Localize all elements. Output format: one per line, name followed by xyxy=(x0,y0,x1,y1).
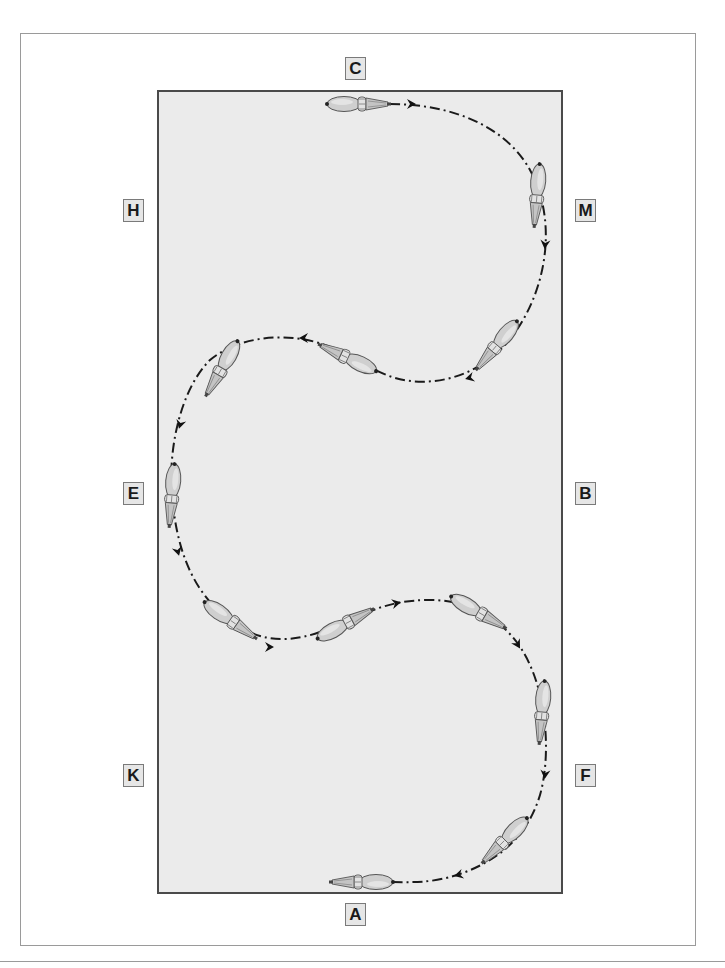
direction-arrow-icon xyxy=(265,642,274,652)
direction-arrow-icon xyxy=(407,99,416,109)
horse-icon xyxy=(312,602,377,646)
direction-arrow-icon xyxy=(464,372,475,384)
horse-icon xyxy=(325,97,391,112)
horse-icon xyxy=(199,336,245,401)
serpentine-path xyxy=(171,104,546,882)
serpentine-overlay xyxy=(0,0,725,968)
horse-icon xyxy=(329,875,395,890)
horse-icon xyxy=(315,337,381,378)
horse-icon xyxy=(476,811,533,868)
horse-icon xyxy=(532,678,553,745)
horse-icon xyxy=(199,595,262,645)
horse-icon xyxy=(162,461,183,528)
direction-arrow-icon xyxy=(299,333,308,343)
horse-icon xyxy=(470,315,524,375)
horse-icon xyxy=(446,589,511,635)
